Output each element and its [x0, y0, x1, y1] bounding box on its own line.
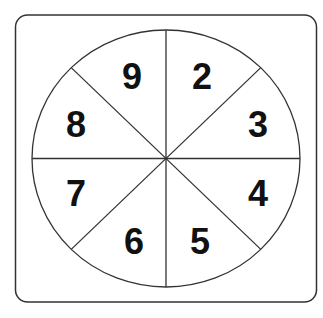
section-number: 3 — [248, 104, 268, 145]
spinner-diagram: 2 3 4 5 6 7 8 9 — [0, 0, 323, 318]
section-dividers — [32, 30, 300, 287]
section-number: 6 — [124, 221, 144, 262]
section-number: 8 — [66, 104, 86, 145]
section-number: 9 — [122, 56, 142, 97]
section-number: 2 — [192, 56, 212, 97]
section-number: 4 — [248, 173, 268, 214]
section-number: 7 — [66, 173, 86, 214]
section-number: 5 — [190, 221, 210, 262]
